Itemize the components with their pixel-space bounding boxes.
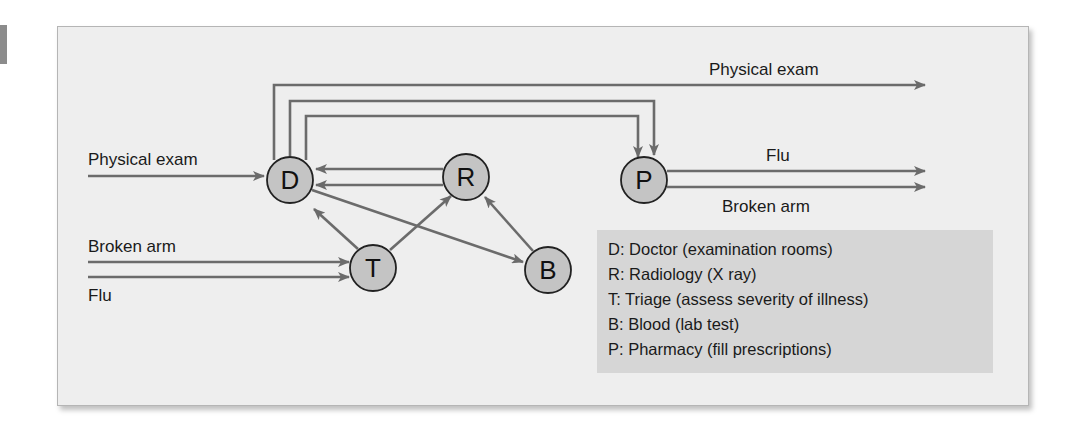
node-T: T bbox=[350, 245, 396, 291]
label-output-physical-exam: Physical exam bbox=[709, 60, 819, 79]
label-output-flu: Flu bbox=[766, 146, 790, 165]
legend-item-blood: B: Blood (lab test) bbox=[608, 312, 993, 337]
edge-D-to-P-2 bbox=[306, 116, 638, 160]
node-D: D bbox=[267, 157, 313, 203]
legend-item-doctor: D: Doctor (examination rooms) bbox=[608, 237, 993, 262]
edge-D-to-output-physical-exam bbox=[274, 85, 925, 160]
legend-box: D: Doctor (examination rooms) R: Radiolo… bbox=[597, 230, 993, 373]
label-input-broken-arm: Broken arm bbox=[88, 237, 176, 256]
node-B: B bbox=[525, 247, 571, 293]
node-B-letter: B bbox=[539, 255, 556, 285]
label-input-physical-exam: Physical exam bbox=[88, 150, 198, 169]
node-T-letter: T bbox=[365, 253, 381, 283]
node-R: R bbox=[443, 154, 489, 200]
edge-D-to-P-1 bbox=[290, 101, 654, 156]
node-D-letter: D bbox=[281, 165, 300, 195]
label-output-broken-arm: Broken arm bbox=[722, 197, 810, 216]
edge-T-to-D bbox=[314, 209, 358, 249]
node-P: P bbox=[621, 157, 667, 203]
node-P-letter: P bbox=[635, 165, 652, 195]
node-R-letter: R bbox=[457, 162, 476, 192]
legend-item-triage: T: Triage (assess severity of illness) bbox=[608, 287, 993, 312]
legend-item-radiology: R: Radiology (X ray) bbox=[608, 262, 993, 287]
legend-item-pharmacy: P: Pharmacy (fill prescriptions) bbox=[608, 337, 993, 362]
edge-T-to-R bbox=[390, 196, 451, 250]
label-input-flu: Flu bbox=[88, 286, 112, 305]
edge-B-to-R bbox=[485, 197, 533, 251]
